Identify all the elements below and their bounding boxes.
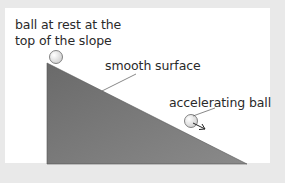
label-smooth-surface: smooth surface — [105, 58, 201, 73]
surface-leader-line — [102, 74, 136, 91]
ball-at-rest-icon — [50, 51, 63, 64]
slope-triangle — [47, 63, 247, 164]
accelerating-ball-icon — [185, 115, 198, 128]
label-accelerating-ball: accelerating ball — [169, 95, 271, 110]
label-ball-at-rest-line1: ball at rest at the — [15, 17, 121, 32]
label-ball-at-rest-line2: top of the slope — [15, 33, 112, 48]
